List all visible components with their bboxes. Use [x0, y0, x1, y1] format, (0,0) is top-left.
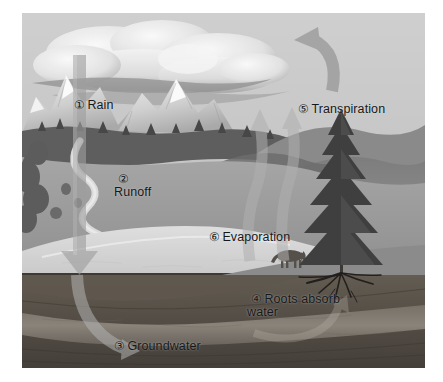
label-rain-number: ① — [74, 99, 87, 111]
label-runoff-number: ② — [118, 173, 131, 185]
label-groundwater-number: ③ — [114, 340, 127, 352]
label-rain-text: Rain — [87, 98, 113, 112]
label-roots-absorb-water: ④Roots absorbwater — [237, 279, 340, 347]
label-rain: ①Rain — [60, 85, 114, 126]
label-evaporation-text: Evaporation — [222, 230, 290, 244]
water-cycle-diagram: ①Rain ②Runoff ③Groundwater ④Roots absorb… — [22, 13, 425, 368]
label-groundwater: ③Groundwater — [100, 326, 201, 367]
label-roots-text: Roots absorb — [264, 292, 340, 306]
label-transpiration-text: Transpiration — [311, 102, 385, 116]
label-roots-text-line2: water — [237, 306, 340, 320]
label-roots-number: ④ — [251, 293, 264, 305]
scene-artwork — [22, 13, 425, 368]
label-transpiration: ⑤Transpiration — [284, 89, 385, 130]
label-runoff-text: Runoff — [104, 186, 151, 200]
label-runoff: ②Runoff — [104, 159, 151, 227]
label-transpiration-number: ⑤ — [298, 103, 311, 115]
label-evaporation-number: ⑥ — [209, 231, 222, 243]
label-groundwater-text: Groundwater — [127, 339, 200, 353]
label-evaporation: ⑥Evaporation — [195, 217, 290, 258]
